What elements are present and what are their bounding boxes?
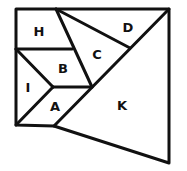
label-d: D [123, 20, 134, 35]
label-k: K [117, 98, 128, 113]
edge-i-a [16, 87, 53, 125]
edge-c-d [56, 9, 130, 48]
label-h: H [34, 24, 45, 39]
edge-diagonal [54, 9, 169, 126]
edge-i-b [16, 49, 53, 87]
label-a: A [50, 99, 60, 114]
label-b: B [58, 61, 68, 76]
label-i: I [26, 80, 31, 95]
puzzle-diagram: H D C B I A K [0, 0, 187, 171]
label-c: C [92, 47, 102, 62]
